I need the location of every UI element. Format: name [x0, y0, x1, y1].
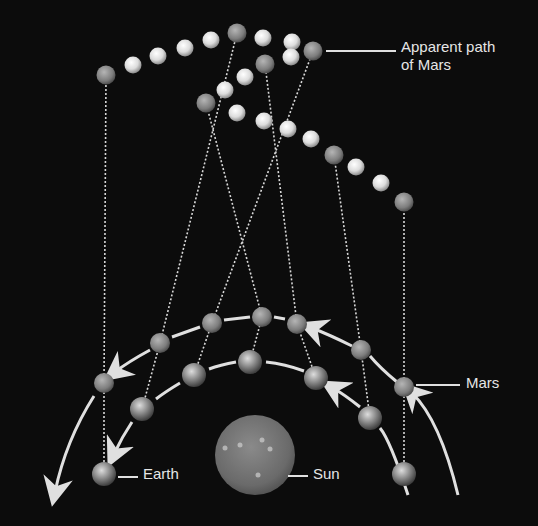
diagram-artwork: [0, 0, 538, 526]
apparent-path-ball: [177, 40, 194, 57]
sight-line: [160, 33, 237, 343]
sun-spot: [256, 473, 261, 478]
apparent-path-ball: [255, 30, 272, 47]
apparent-path-ball: [125, 57, 142, 74]
mars-planet: [202, 313, 222, 333]
apparent-mars-marker: [325, 146, 344, 165]
earth-planet: [238, 350, 262, 374]
apparent-path-ball: [284, 34, 301, 51]
retrograde-diagram: Apparent path of Mars Mars Earth Sun: [0, 0, 538, 526]
apparent-mars-marker: [256, 55, 275, 74]
earth-planet: [130, 397, 154, 421]
mars-planet: [94, 373, 114, 393]
apparent-path-ball: [373, 175, 390, 192]
mars-label: Mars: [466, 374, 499, 392]
sun-spot: [238, 443, 243, 448]
sun: [215, 415, 295, 495]
sight-line: [334, 155, 361, 350]
sun-label: Sun: [313, 465, 340, 483]
sun-spot: [260, 438, 265, 443]
mars-planet: [287, 314, 307, 334]
apparent-path-ball: [280, 121, 297, 138]
apparent-mars-marker: [395, 193, 414, 212]
apparent-path-ball: [283, 49, 300, 66]
mars-planet: [252, 307, 272, 327]
apparent-mars-marker: [97, 66, 116, 85]
apparent-path-ball: [203, 32, 220, 49]
apparent-path-ball: [229, 105, 246, 122]
earth-planet: [182, 363, 206, 387]
apparent-path-label-line2: of Mars: [401, 56, 495, 74]
apparent-mars-marker: [197, 94, 216, 113]
apparent-mars-marker: [228, 24, 247, 43]
apparent-path-label: Apparent path of Mars: [401, 38, 495, 74]
mars-planet: [351, 340, 371, 360]
sun-spot: [223, 446, 228, 451]
mars-planet: [150, 333, 170, 353]
earth-planet: [358, 406, 382, 430]
earth-planet: [392, 462, 416, 486]
apparent-path-ball: [256, 113, 273, 130]
apparent-path-ball: [150, 48, 167, 65]
apparent-path-ball: [303, 131, 320, 148]
apparent-path-label-line1: Apparent path: [401, 38, 495, 56]
earth-label: Earth: [143, 465, 179, 483]
celestial-bodies: [92, 24, 416, 496]
earth-planet: [304, 366, 328, 390]
mars-planet: [394, 377, 414, 397]
apparent-path-ball: [237, 69, 254, 86]
apparent-path-ball: [348, 159, 365, 176]
sun-spot: [268, 447, 273, 452]
earth-planet: [92, 462, 116, 486]
sight-line: [104, 75, 106, 383]
apparent-mars-marker: [304, 42, 323, 61]
sight-line: [265, 64, 297, 324]
apparent-path-ball: [217, 82, 234, 99]
